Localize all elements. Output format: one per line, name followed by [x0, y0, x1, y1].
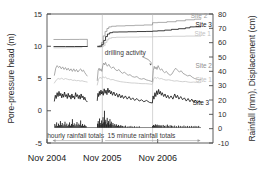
rainfall-bar: [153, 125, 154, 128]
rainfall-bar: [76, 124, 77, 127]
y2-tick-label: 50: [218, 53, 226, 62]
rainfall-bar: [71, 124, 72, 128]
x-tick-label: Nov 2005: [83, 153, 122, 163]
y2-tick-label: 80: [218, 10, 226, 19]
rainfall-bar: [74, 123, 75, 127]
rainfall-bar: [66, 124, 67, 128]
y-axis-label: Pore-pressure head (m): [6, 33, 16, 123]
rainfall-bar: [112, 123, 113, 128]
rainfall-bar: [59, 125, 60, 127]
rainfall-bar: [113, 125, 114, 127]
pore-pressure-rainfall-chart: 151050-5 80706050403020100-10 Nov 2004No…: [0, 0, 267, 171]
label-site-3-displacement: Site 3: [195, 21, 212, 28]
label-site-2-displacement: Site 2: [191, 12, 208, 19]
rainfall-bar: [120, 125, 121, 127]
rainfall-bar: [56, 122, 57, 127]
rainfall-bar: [170, 125, 171, 127]
rainfall-bar: [63, 126, 64, 128]
figure-container: 151050-5 80706050403020100-10 Nov 2004No…: [0, 0, 267, 171]
rainfall-bar: [72, 119, 73, 127]
y-tick-label: 0: [38, 106, 42, 115]
rainfall-bar: [80, 120, 81, 127]
rainfall-bar: [154, 126, 155, 128]
rainfall-bar: [157, 125, 158, 128]
rainfall-bar: [184, 126, 185, 128]
rainfall-bar: [65, 122, 66, 128]
annotation-drilling-activity: drilling activity: [105, 49, 147, 57]
rainfall-bar: [70, 126, 71, 128]
rainfall-bar: [78, 124, 79, 128]
rainfall-bar: [65, 125, 66, 127]
y2-tick-label: 30: [218, 81, 226, 90]
rainfall-bar: [159, 125, 160, 128]
rainfall-bar: [84, 125, 85, 128]
rainfall-bar: [75, 126, 76, 128]
rainfall-bar: [68, 125, 69, 128]
label-site-3-pressure: Site 3: [193, 99, 210, 106]
rainfall-bar: [171, 126, 172, 128]
rainfall-bar: [167, 125, 168, 128]
y2-tick-label: 20: [218, 96, 226, 105]
y2-axis-label: Rainfall (mm), Displacement (cm): [247, 15, 257, 141]
x-tick-label: Nov 2004: [28, 153, 67, 163]
rainfall-bar: [55, 126, 56, 128]
rainfall-bar: [174, 126, 175, 128]
rainfall-bar: [116, 124, 117, 127]
rainfall-bar: [166, 126, 167, 128]
rainfall-bar: [54, 124, 55, 128]
rainfall-bar: [81, 126, 82, 128]
y-tick-label: -5: [35, 139, 42, 148]
label-site-1-pressure: Site 1: [195, 76, 212, 83]
rainfall-bar: [121, 126, 122, 128]
y2-tick-label: 70: [218, 24, 226, 33]
rainfall-bar: [77, 122, 78, 127]
rainfall-bar: [160, 125, 161, 127]
annotation-fifteen-minute-rainfall: 15 minute rainfall totals: [108, 132, 177, 139]
rainfall-bar: [77, 125, 78, 127]
rainfall-bar: [178, 126, 179, 128]
rainfall-bar: [85, 126, 86, 128]
y-tick-label: 5: [38, 74, 42, 83]
rainfall-bar: [62, 123, 63, 128]
rainfall-bar: [64, 124, 65, 127]
rainfall-bar: [73, 125, 74, 128]
rainfall-bar: [125, 126, 126, 128]
rainfall-bar: [69, 122, 70, 127]
rainfall-bar: [60, 121, 61, 127]
y2-tick-label: 40: [218, 67, 226, 76]
y-tick-label: 10: [34, 42, 42, 51]
y2-tick-label: 10: [218, 110, 226, 119]
rainfall-bar: [114, 124, 115, 128]
rainfall-bar: [118, 125, 119, 128]
rainfall-bar: [61, 125, 62, 128]
annotation-hourly-rainfall: hourly rainfall totals: [47, 132, 105, 140]
rainfall-bar: [82, 124, 83, 128]
y-tick-label: 15: [34, 10, 42, 19]
y2-tick-label: 60: [218, 38, 226, 47]
rainfall-bar: [115, 126, 116, 128]
rainfall-bar: [156, 125, 157, 127]
x-tick-label: Nov 2006: [138, 153, 177, 163]
rainfall-bar: [163, 125, 164, 128]
rainfall-bar: [112, 125, 113, 128]
y2-tick-label: 0: [218, 124, 222, 133]
rainfall-bar: [79, 125, 80, 128]
rainfall-bar: [158, 126, 159, 128]
label-site-2-pressure: Site 2: [195, 62, 212, 69]
label-site-1-displacement: Site 1: [195, 30, 212, 37]
rainfall-bar: [155, 124, 156, 127]
rainfall-bar: [58, 124, 59, 128]
rainfall-bar: [161, 126, 162, 128]
y2-tick-label: -10: [218, 139, 229, 148]
